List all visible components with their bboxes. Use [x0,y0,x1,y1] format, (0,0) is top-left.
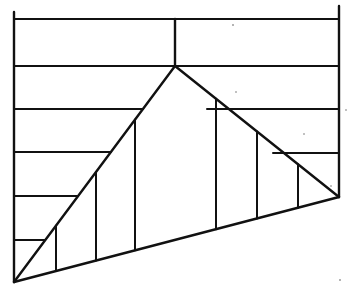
triangle [14,66,339,282]
line-drawing [0,0,350,287]
diagram-canvas [0,0,350,287]
triangle-base [14,197,339,282]
horizontal-rungs [14,19,339,240]
triangle-left-side [14,66,175,282]
vertical-hatching [56,99,298,271]
